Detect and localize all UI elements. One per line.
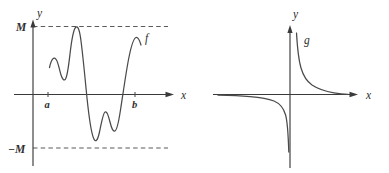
curve-label-g: g: [304, 34, 310, 47]
left-panel-graph-of-f: M −M y x a b f: [0, 0, 200, 173]
upper-bound-label: M: [15, 21, 27, 33]
x-axis-arrowhead: [166, 92, 175, 98]
x-axis-label: x: [180, 89, 187, 101]
y-axis-arrowhead: [287, 25, 292, 33]
y-axis-label: y: [36, 7, 43, 20]
y-axis-label: y: [292, 8, 299, 21]
curve-f: [50, 27, 142, 141]
x-axis-label: x: [365, 89, 372, 101]
interval-end-label-b: b: [132, 99, 137, 110]
curve-g-branch-lower-left: [218, 95, 289, 152]
x-axis-arrowhead: [350, 92, 359, 98]
interval-start-label-a: a: [45, 99, 50, 110]
lower-bound-label: −M: [8, 143, 26, 155]
right-panel-graph-of-g: y x g: [200, 0, 389, 173]
figure-container: M −M y x a b f y x g: [0, 0, 389, 173]
curve-label-f: f: [145, 32, 150, 45]
y-axis-arrowhead: [30, 20, 35, 28]
